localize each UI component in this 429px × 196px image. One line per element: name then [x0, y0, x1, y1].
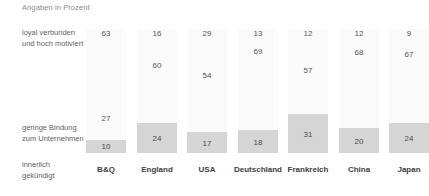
value-loyal: 13 [238, 29, 278, 38]
value-loyal: 29 [187, 29, 227, 38]
value-low-engagement: 57 [288, 66, 328, 75]
category-label: B&Q [78, 165, 134, 174]
chart-column: 125731Frankreich [288, 20, 328, 175]
column-background-band [86, 29, 126, 153]
category-label: Japan [381, 165, 429, 174]
value-loyal: 63 [86, 29, 126, 38]
chart-column: 632710B&Q [86, 20, 126, 175]
value-internally-resigned: 31 [288, 130, 328, 139]
row-label-internally-resigned: innerlich gekündigt [22, 160, 55, 181]
value-internally-resigned: 17 [187, 139, 227, 148]
value-low-engagement: 69 [238, 47, 278, 56]
row-label-low-line2: zum Unternehmen [22, 134, 84, 145]
value-low-engagement: 27 [86, 114, 126, 123]
category-label: USA [179, 165, 235, 174]
value-internally-resigned: 24 [137, 134, 177, 143]
row-label-quit-line1: innerlich [22, 160, 55, 171]
row-label-low-engagement: geringe Bindung zum Unternehmen [22, 123, 84, 144]
chart-root: Angaben in Prozent loyal verbunden und h… [0, 0, 429, 196]
chart-column: 126820China [339, 20, 379, 175]
chart-caption: Angaben in Prozent [22, 3, 90, 12]
value-low-engagement: 54 [187, 71, 227, 80]
value-internally-resigned: 24 [389, 134, 429, 143]
chart-column: 166024England [137, 20, 177, 175]
value-loyal: 9 [389, 29, 429, 38]
value-low-engagement: 68 [339, 48, 379, 57]
chart-column: 295417USA [187, 20, 227, 175]
row-label-loyal-line1: loyal verbunden [22, 28, 83, 39]
category-label: Frankreich [280, 165, 336, 174]
category-label: England [129, 165, 185, 174]
row-label-quit-line2: gekündigt [22, 171, 55, 182]
category-label: Deutschland [230, 165, 286, 174]
value-loyal: 12 [339, 29, 379, 38]
row-label-loyal-line2: und hoch motiviert [22, 39, 83, 50]
plot-area: 632710B&Q166024England295417USA136918Deu… [86, 20, 429, 175]
category-label: China [331, 165, 387, 174]
value-internally-resigned: 10 [86, 142, 126, 151]
chart-column: 136918Deutschland [238, 20, 278, 175]
value-low-engagement: 60 [137, 61, 177, 70]
value-loyal: 16 [137, 29, 177, 38]
value-loyal: 12 [288, 29, 328, 38]
row-label-low-line1: geringe Bindung [22, 123, 84, 134]
value-internally-resigned: 20 [339, 137, 379, 146]
chart-column: 96724Japan [389, 20, 429, 175]
row-label-loyal: loyal verbunden und hoch motiviert [22, 28, 83, 49]
value-internally-resigned: 18 [238, 138, 278, 147]
value-low-engagement: 67 [389, 50, 429, 59]
